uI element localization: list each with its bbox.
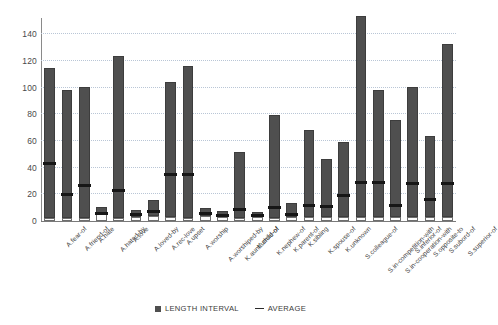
average-marker [372, 181, 385, 184]
bar-interval [62, 90, 73, 219]
x-axis-tick-labels: A.fear-ofA.friend-ofA.hateA.hated-byA.lo… [41, 223, 456, 303]
bar-slot[interactable] [338, 21, 349, 221]
legend-label-length-interval: LENGTH INTERVAL [165, 304, 239, 313]
bar-slot[interactable] [96, 21, 107, 221]
legend-square-icon [155, 306, 161, 312]
bar-interval [79, 87, 90, 218]
average-marker [216, 214, 229, 217]
bar-slot[interactable] [165, 21, 176, 221]
y-tick-label: 40 [1, 163, 37, 173]
bar-slot[interactable] [321, 21, 332, 221]
bar-slot[interactable] [390, 21, 401, 221]
average-marker [147, 210, 160, 213]
x-tick-label: A.love [132, 225, 150, 243]
bar-slot[interactable] [269, 21, 280, 221]
average-marker [441, 182, 454, 185]
bar-interval [183, 66, 194, 219]
bar-interval [269, 115, 280, 218]
plot-area [41, 21, 456, 221]
x-axis-baseline [41, 221, 456, 222]
bar-interval [44, 68, 55, 218]
average-marker [199, 212, 212, 215]
legend-line-icon [255, 308, 264, 309]
bar-slot[interactable] [234, 21, 245, 221]
average-marker [406, 182, 419, 185]
average-marker [268, 206, 281, 209]
average-marker [355, 181, 368, 184]
y-tick-label: 60 [1, 136, 37, 146]
bar-interval [407, 87, 418, 217]
y-tick-label: 100 [1, 83, 37, 93]
average-marker [424, 198, 437, 201]
bar-slot[interactable] [286, 21, 297, 221]
y-tick-label: 120 [1, 56, 37, 66]
bar-slot[interactable] [252, 21, 263, 221]
bar-slot[interactable] [373, 21, 384, 221]
bar-interval [321, 159, 332, 217]
average-marker [112, 189, 125, 192]
bar-interval [373, 90, 384, 217]
bar-slot[interactable] [44, 21, 55, 221]
bar-slot[interactable] [200, 21, 211, 221]
average-marker [130, 213, 143, 216]
bar-interval [113, 56, 124, 218]
average-marker [337, 194, 350, 197]
bar-lower-bound [96, 214, 107, 221]
average-marker [251, 214, 264, 217]
average-marker [320, 205, 333, 208]
average-marker [182, 173, 195, 176]
bar-interval [148, 200, 159, 215]
bar-slot[interactable] [148, 21, 159, 221]
bar-slot[interactable] [217, 21, 228, 221]
y-tick-label: 20 [1, 189, 37, 199]
bar-slot[interactable] [79, 21, 90, 221]
bar-slot[interactable] [442, 21, 453, 221]
legend-item-length-interval: LENGTH INTERVAL [155, 304, 239, 313]
average-marker [43, 162, 56, 165]
legend-item-average: AVERAGE [255, 304, 306, 313]
x-tick-label: A.worship [204, 225, 230, 251]
bar-slot[interactable] [407, 21, 418, 221]
average-marker [233, 208, 246, 211]
average-marker [61, 193, 74, 196]
bar-slot[interactable] [425, 21, 436, 221]
bar-interval [442, 44, 453, 217]
bar-slot[interactable] [183, 21, 194, 221]
average-marker [389, 204, 402, 207]
bar-interval [390, 120, 401, 217]
average-marker [303, 204, 316, 207]
y-tick-label: 0 [1, 216, 37, 226]
average-marker [164, 173, 177, 176]
bar-slot[interactable] [113, 21, 124, 221]
average-marker [285, 213, 298, 216]
y-axis-tick-labels: 020406080100120140 [0, 21, 37, 221]
bar-slot[interactable] [304, 21, 315, 221]
bar-interval [338, 142, 349, 217]
bar-interval [356, 16, 367, 217]
chart-legend: LENGTH INTERVAL AVERAGE [0, 304, 461, 313]
average-marker [78, 184, 91, 187]
y-tick-label: 80 [1, 109, 37, 119]
x-tick-label: A.hate [97, 225, 116, 244]
bar-interval [165, 82, 176, 217]
bar-slot[interactable] [131, 21, 142, 221]
bar-slot[interactable] [356, 21, 367, 221]
bar-slot[interactable] [62, 21, 73, 221]
bar-interval [425, 136, 436, 217]
legend-label-average: AVERAGE [268, 304, 306, 313]
average-marker [95, 212, 108, 215]
y-tick-label: 140 [1, 29, 37, 39]
